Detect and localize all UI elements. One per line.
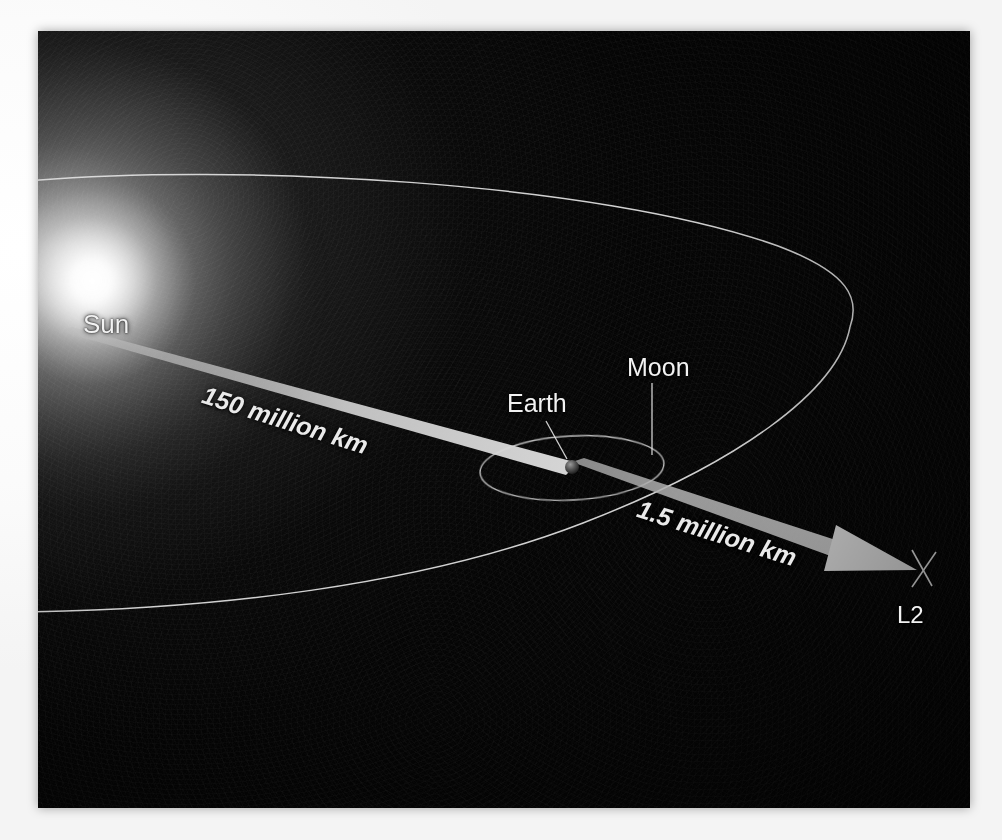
earth-orbit-curve-upper [38, 174, 853, 327]
arrowhead-icon [824, 525, 917, 571]
figure-page: Sun Earth Moon L2 150 million km 1.5 mil… [0, 0, 1002, 840]
earth-orbit-curve-lower [38, 327, 850, 612]
diagram-vector-overlay [38, 31, 970, 808]
diagram-panel: Sun Earth Moon L2 150 million km 1.5 mil… [38, 31, 970, 808]
l2-cross-marker-icon [912, 550, 936, 587]
earth-dot [565, 460, 579, 474]
earth-to-l2-arrow-band [572, 458, 848, 558]
earth-leader-line [546, 421, 567, 459]
sun-to-earth-arrow-band [60, 327, 578, 475]
